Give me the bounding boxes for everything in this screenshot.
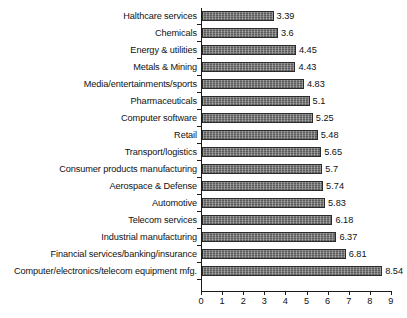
bar-row: Halthcare services3.39 bbox=[0, 8, 407, 25]
bar bbox=[202, 181, 323, 191]
bar bbox=[202, 215, 332, 225]
bar-value-label: 5.25 bbox=[316, 110, 334, 127]
category-label: Metals & Mining bbox=[133, 59, 197, 76]
x-axis-tick-label: 0 bbox=[198, 296, 203, 306]
bar bbox=[202, 266, 382, 276]
x-axis-tick bbox=[285, 291, 286, 295]
bar-value-label: 8.54 bbox=[385, 263, 403, 280]
bar bbox=[202, 113, 313, 123]
category-label: Telecom services bbox=[128, 212, 197, 229]
x-axis-tick-label: 8 bbox=[367, 296, 372, 306]
x-axis-tick bbox=[264, 291, 265, 295]
category-label: Media/entertainments/sports bbox=[84, 76, 197, 93]
category-label: Aerospace & Defense bbox=[110, 178, 197, 195]
bar-rows: Halthcare services3.39Chemicals3.6Energy… bbox=[0, 8, 407, 280]
bar bbox=[202, 96, 310, 106]
x-axis-tick-label: 9 bbox=[388, 296, 393, 306]
bar bbox=[202, 11, 274, 21]
category-label: Transport/logistics bbox=[125, 144, 197, 161]
bar bbox=[202, 249, 346, 259]
bar-row: Pharmaceuticals5.1 bbox=[0, 93, 407, 110]
bar-row: Consumer products manufacturing5.7 bbox=[0, 161, 407, 178]
bar-row: Chemicals3.6 bbox=[0, 25, 407, 42]
bar bbox=[202, 147, 321, 157]
x-axis-tick bbox=[349, 291, 350, 295]
bar-value-label: 5.65 bbox=[324, 144, 342, 161]
bar bbox=[202, 232, 336, 242]
x-axis-tick-label: 1 bbox=[220, 296, 225, 306]
bar-row: Metals & Mining4.43 bbox=[0, 59, 407, 76]
bar-value-label: 3.39 bbox=[277, 8, 295, 25]
bar bbox=[202, 198, 325, 208]
category-label: Pharmaceuticals bbox=[131, 93, 197, 110]
category-label: Computer/electronics/telecom equipment m… bbox=[14, 263, 197, 280]
category-label: Halthcare services bbox=[123, 8, 197, 25]
bar bbox=[202, 62, 295, 72]
x-axis-tick bbox=[391, 291, 392, 295]
bar-value-label: 5.83 bbox=[328, 195, 346, 212]
category-label: Industrial manufacturing bbox=[101, 229, 197, 246]
bar bbox=[202, 130, 318, 140]
x-axis-tick bbox=[201, 291, 202, 295]
category-label: Retail bbox=[174, 127, 197, 144]
category-label: Automotive bbox=[152, 195, 197, 212]
bar-value-label: 5.1 bbox=[313, 93, 326, 110]
bar-value-label: 4.43 bbox=[298, 59, 316, 76]
x-axis-tick-label: 4 bbox=[283, 296, 288, 306]
bar-row: Transport/logistics5.65 bbox=[0, 144, 407, 161]
bar-chart: Halthcare services3.39Chemicals3.6Energy… bbox=[0, 0, 407, 318]
bar-row: Computer/electronics/telecom equipment m… bbox=[0, 263, 407, 280]
x-axis-tick bbox=[328, 291, 329, 295]
x-axis-tick bbox=[243, 291, 244, 295]
bar-value-label: 3.6 bbox=[281, 25, 294, 42]
bar-row: Aerospace & Defense5.74 bbox=[0, 178, 407, 195]
category-label: Computer software bbox=[121, 110, 197, 127]
x-axis-tick bbox=[307, 291, 308, 295]
bar-value-label: 6.18 bbox=[335, 212, 353, 229]
x-axis-tick-label: 5 bbox=[304, 296, 309, 306]
category-label: Consumer products manufacturing bbox=[59, 161, 197, 178]
bar-row: Computer software5.25 bbox=[0, 110, 407, 127]
bar bbox=[202, 45, 296, 55]
category-label: Chemicals bbox=[155, 25, 197, 42]
bar-value-label: 4.83 bbox=[307, 76, 325, 93]
bar-row: Industrial manufacturing6.37 bbox=[0, 229, 407, 246]
bar-value-label: 5.74 bbox=[326, 178, 344, 195]
bar-row: Retail5.48 bbox=[0, 127, 407, 144]
x-axis-tick-label: 7 bbox=[346, 296, 351, 306]
bar bbox=[202, 79, 304, 89]
x-axis-tick bbox=[222, 291, 223, 295]
x-axis-tick-label: 6 bbox=[325, 296, 330, 306]
bar-row: Financial services/banking/insurance6.81 bbox=[0, 246, 407, 263]
bar-value-label: 6.81 bbox=[349, 246, 367, 263]
bar-row: Automotive5.83 bbox=[0, 195, 407, 212]
bar-value-label: 5.7 bbox=[325, 161, 338, 178]
bar-value-label: 5.48 bbox=[321, 127, 339, 144]
bar-value-label: 4.45 bbox=[299, 42, 317, 59]
category-label: Energy & utilities bbox=[130, 42, 197, 59]
bar-row: Telecom services6.18 bbox=[0, 212, 407, 229]
bar bbox=[202, 164, 322, 174]
bar-row: Media/entertainments/sports4.83 bbox=[0, 76, 407, 93]
plot-area: Halthcare services3.39Chemicals3.6Energy… bbox=[0, 0, 407, 318]
x-axis-tick-label: 3 bbox=[262, 296, 267, 306]
category-label: Financial services/banking/insurance bbox=[50, 246, 197, 263]
bar-row: Energy & utilities4.45 bbox=[0, 42, 407, 59]
x-axis-line bbox=[201, 291, 391, 292]
bar-value-label: 6.37 bbox=[339, 229, 357, 246]
x-axis-tick-label: 2 bbox=[241, 296, 246, 306]
y-axis-tick bbox=[197, 279, 201, 280]
bar bbox=[202, 28, 278, 38]
x-axis-tick bbox=[370, 291, 371, 295]
